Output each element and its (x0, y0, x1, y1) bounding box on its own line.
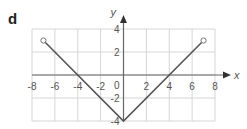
y-axis-label: y (110, 6, 118, 18)
y-tick-label: -4 (111, 116, 120, 127)
x-tick-label: -6 (50, 81, 59, 92)
origin-label: 0 (114, 80, 120, 91)
y-tick-label: -2 (111, 93, 120, 104)
open-endpoint-marker (201, 38, 206, 43)
y-axis-arrow-icon (120, 15, 127, 23)
x-tick-label: -4 (73, 81, 82, 92)
x-tick-label: 2 (144, 81, 150, 92)
x-tick-label: -2 (96, 81, 105, 92)
y-tick-label: 2 (114, 47, 120, 58)
x-tick-label: 8 (212, 81, 218, 92)
x-tick-label: 4 (166, 81, 172, 92)
x-axis-label: x (233, 69, 240, 81)
x-axis-arrow-icon (223, 72, 231, 79)
axes: xy (32, 6, 240, 121)
chart: xy -8-6-4-2246842-2-40 (0, 0, 247, 129)
x-tick-label: 6 (189, 81, 195, 92)
y-tick-label: 4 (114, 24, 120, 35)
x-tick-label: -8 (28, 81, 37, 92)
open-endpoint-marker (41, 38, 46, 43)
